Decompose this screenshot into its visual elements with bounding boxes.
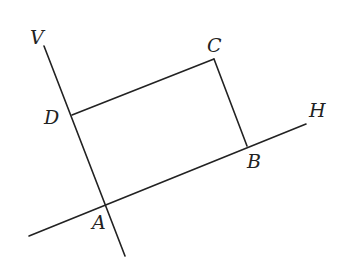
- label-v: V: [30, 26, 46, 48]
- segment-cb: [214, 59, 247, 146]
- geometry-diagram: V C D B H A: [0, 0, 346, 257]
- line-h: [29, 124, 306, 236]
- label-a: A: [90, 211, 106, 233]
- label-d: D: [43, 106, 59, 128]
- label-b: B: [246, 150, 261, 172]
- label-h: H: [308, 99, 326, 121]
- label-c: C: [207, 34, 222, 56]
- segment-dc: [72, 59, 214, 115]
